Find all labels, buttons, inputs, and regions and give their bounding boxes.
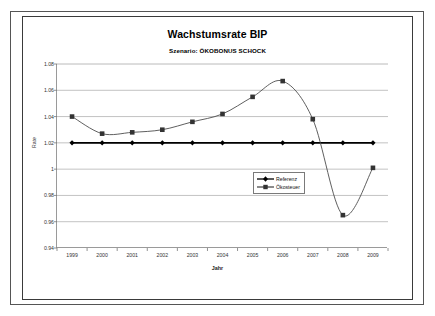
legend-key-square-icon — [257, 183, 274, 191]
data-point-marker — [340, 140, 345, 145]
x-axis-tick-label: 2008 — [337, 252, 349, 258]
data-point-marker — [370, 140, 375, 145]
data-point-marker — [250, 140, 255, 145]
plot-area: 1.081.061.041.0210.980.960.9419992000200… — [56, 64, 387, 248]
y-axis-tick-label: 1.06 — [44, 87, 54, 93]
legend-key-diamond-icon — [257, 175, 274, 183]
data-point-marker — [100, 131, 105, 136]
data-point-marker — [190, 120, 195, 125]
chart-page: Wachstumsrate BIP Szenario: ÖKOBONUS SCH… — [0, 0, 435, 316]
x-axis-tick-label: 2006 — [277, 252, 289, 258]
legend-label-oekosteuer: Ökosteuer — [276, 184, 300, 190]
data-point-marker — [310, 140, 315, 145]
data-point-marker — [250, 95, 255, 100]
x-axis-tick-label: 2005 — [247, 252, 259, 258]
x-axis-tick-label: 2001 — [126, 252, 138, 258]
data-point-marker — [341, 213, 346, 218]
data-point-marker — [220, 112, 225, 117]
x-axis-tick-label: 1999 — [66, 252, 78, 258]
x-axis-tick-label: 2000 — [96, 252, 108, 258]
legend-item-referenz[interactable]: Referenz — [257, 175, 300, 183]
y-axis-tick-label: 0.96 — [44, 219, 54, 225]
x-axis-tick-label: 2007 — [307, 252, 319, 258]
y-axis-tick-label: 0.94 — [44, 245, 54, 251]
x-axis-tick-label: 2003 — [187, 252, 199, 258]
data-point-marker — [100, 140, 105, 145]
data-point-marker — [160, 127, 165, 132]
chart-subtitle: Szenario: ÖKOBONUS SCHOCK — [0, 47, 435, 54]
y-axis-label: Rate — [31, 137, 37, 148]
legend-label-referenz: Referenz — [276, 176, 297, 182]
data-point-marker — [70, 114, 75, 119]
data-point-marker — [160, 140, 165, 145]
data-point-marker — [310, 117, 315, 122]
x-axis-tick-label: 2009 — [367, 252, 379, 258]
chart-legend: Referenz Ökosteuer — [253, 172, 305, 194]
data-point-marker — [371, 166, 376, 171]
y-axis-tick-label: 1 — [51, 166, 54, 172]
y-axis-tick-label: 1.04 — [44, 114, 54, 120]
x-axis-tick-label: 2004 — [217, 252, 229, 258]
data-point-marker — [69, 140, 74, 145]
plot-canvas — [57, 64, 388, 248]
data-point-marker — [280, 140, 285, 145]
data-point-marker — [130, 140, 135, 145]
data-point-marker — [130, 130, 135, 135]
data-point-marker — [220, 140, 225, 145]
y-axis-tick-label: 1.02 — [44, 140, 54, 146]
chart-title: Wachstumsrate BIP — [0, 28, 435, 40]
y-axis-tick-label: 0.98 — [44, 192, 54, 198]
data-point-marker — [280, 79, 285, 84]
x-axis-tick-label: 2002 — [157, 252, 169, 258]
y-axis-tick-label: 1.08 — [44, 61, 54, 67]
data-point-marker — [190, 140, 195, 145]
x-axis-label: Jahr — [0, 265, 435, 271]
legend-item-oekosteuer[interactable]: Ökosteuer — [257, 183, 300, 191]
